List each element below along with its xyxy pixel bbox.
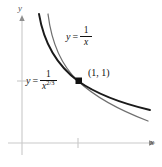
y-axis-arrow-icon — [19, 15, 24, 21]
curve-label-1-over-x-two-thirds-equals: = — [32, 76, 38, 86]
curve-label-1-over-x: y = 1 x — [66, 26, 92, 47]
point-label-1-1: (1, 1) — [88, 68, 110, 78]
curve-label-1-over-x-two-thirds-lhs: y — [26, 76, 30, 86]
curve-label-1-over-x-numerator: 1 — [82, 26, 91, 36]
curve-label-1-over-x-lhs: y — [66, 32, 70, 42]
curve-label-1-over-x-two-thirds: y = 1 x2/3 — [26, 70, 57, 91]
denominator-exponent: 2/3 — [46, 78, 54, 85]
curve-label-1-over-x-denominator: x — [82, 37, 90, 48]
y-axis-label: y — [18, 4, 22, 13]
figure-container: y x y = 1 x y = 1 x2/3 (1, 1) — [0, 0, 162, 167]
point-marker-1-1 — [76, 78, 83, 85]
curve-label-1-over-x-two-thirds-denominator: x2/3 — [40, 81, 57, 92]
curve-label-1-over-x-two-thirds-fraction: 1 x2/3 — [40, 70, 57, 91]
curve-label-1-over-x-equals: = — [72, 32, 78, 42]
curve-y-equals-1-over-x-two-thirds — [39, 14, 150, 110]
curve-label-1-over-x-fraction: 1 x — [80, 26, 92, 47]
x-axis-label: x — [150, 138, 154, 147]
